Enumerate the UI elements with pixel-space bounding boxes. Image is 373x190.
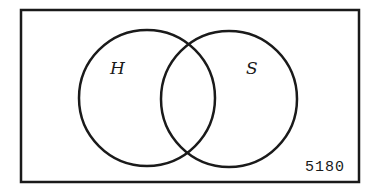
figure-id-label: 5180 — [305, 159, 345, 176]
venn-diagram: H S 5180 — [0, 0, 373, 190]
set-h-label: H — [109, 58, 126, 78]
set-s-label: S — [246, 58, 258, 78]
